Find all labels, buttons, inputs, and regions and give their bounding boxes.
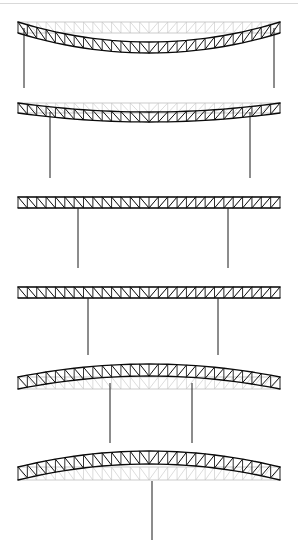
truss-diagram-canvas xyxy=(0,0,298,545)
support-columns xyxy=(78,208,228,268)
deformed-truss xyxy=(18,197,280,208)
support-columns xyxy=(24,28,274,88)
two-interior-columns-hogging xyxy=(18,364,280,443)
support-columns xyxy=(88,298,218,355)
two-interior-columns-straight xyxy=(18,197,280,268)
simply-supported-end-columns-sagging xyxy=(18,22,280,88)
truss-deflection-figure xyxy=(0,0,298,545)
support-columns xyxy=(110,383,192,443)
panels-layer xyxy=(18,22,280,540)
single-central-column-hogging xyxy=(18,451,280,540)
deformed-truss xyxy=(18,287,280,298)
reference-truss xyxy=(18,22,280,33)
two-interior-columns-slight-sag xyxy=(18,103,280,178)
reference-truss xyxy=(18,467,280,480)
two-interior-columns-straight-wide xyxy=(18,287,280,355)
